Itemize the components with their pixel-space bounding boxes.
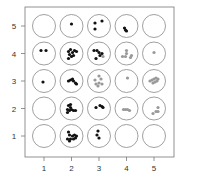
data-point bbox=[70, 55, 73, 58]
grid-cell-4-4 bbox=[115, 42, 138, 65]
y-tick-label: 4 bbox=[12, 50, 17, 59]
data-point bbox=[97, 81, 100, 84]
grid-cell-2-3 bbox=[60, 70, 83, 93]
data-point bbox=[155, 79, 158, 82]
grid-cell-3-1 bbox=[88, 125, 111, 148]
cell-circle bbox=[88, 125, 111, 148]
plot-area bbox=[33, 15, 166, 148]
grid-cell-1-5 bbox=[33, 15, 56, 38]
data-point bbox=[75, 82, 78, 85]
data-point bbox=[41, 80, 44, 83]
grid-cell-3-3 bbox=[88, 70, 111, 93]
data-point bbox=[39, 49, 42, 52]
data-point bbox=[152, 51, 155, 54]
y-tick-label: 1 bbox=[12, 132, 17, 141]
grid-cell-5-1 bbox=[143, 125, 166, 148]
data-point bbox=[44, 49, 47, 52]
cell-circle bbox=[88, 70, 111, 93]
data-point bbox=[69, 103, 72, 106]
cell-circle bbox=[33, 125, 56, 148]
data-point bbox=[66, 111, 69, 114]
x-tick-label: 1 bbox=[42, 164, 47, 173]
data-point bbox=[125, 49, 128, 52]
data-point bbox=[99, 77, 102, 80]
data-point bbox=[94, 57, 97, 60]
grid-cell-4-5 bbox=[115, 15, 138, 38]
data-point bbox=[151, 112, 154, 115]
grid-cell-2-1 bbox=[60, 125, 83, 148]
cell-circle bbox=[115, 70, 138, 93]
cell-circle bbox=[143, 125, 166, 148]
grid-cell-3-2 bbox=[88, 97, 111, 120]
data-point bbox=[97, 136, 100, 139]
cell-circle bbox=[115, 15, 138, 38]
grid-cell-3-4 bbox=[88, 42, 111, 65]
grid-cell-5-5 bbox=[143, 15, 166, 38]
y-axis: 12345 bbox=[12, 22, 25, 141]
grid-cell-5-2 bbox=[143, 97, 166, 120]
grid-cell-3-5 bbox=[88, 15, 111, 38]
data-point bbox=[125, 29, 128, 32]
grid-cell-4-2 bbox=[115, 97, 138, 120]
data-point bbox=[75, 50, 78, 53]
data-point bbox=[69, 48, 72, 51]
data-point bbox=[156, 110, 159, 113]
grid-cell-4-3 bbox=[115, 70, 138, 93]
cell-circle bbox=[33, 15, 56, 38]
x-axis: 12345 bbox=[42, 157, 157, 173]
data-point bbox=[67, 130, 70, 133]
data-point bbox=[97, 51, 100, 54]
data-point bbox=[96, 84, 99, 87]
data-point bbox=[93, 27, 96, 30]
data-point bbox=[100, 82, 103, 85]
data-point bbox=[101, 55, 104, 58]
x-tick-label: 4 bbox=[124, 164, 129, 173]
data-point bbox=[121, 55, 124, 58]
x-tick-label: 2 bbox=[69, 164, 74, 173]
y-tick-label: 2 bbox=[12, 105, 17, 114]
cell-circle bbox=[143, 97, 166, 120]
grid-cell-5-4 bbox=[143, 42, 166, 65]
grid-cell-1-2 bbox=[33, 97, 56, 120]
data-point bbox=[68, 133, 71, 136]
data-point bbox=[100, 19, 103, 22]
y-tick-label: 3 bbox=[12, 77, 17, 86]
cell-circle bbox=[33, 97, 56, 120]
data-point bbox=[70, 22, 73, 25]
grid-cell-1-4 bbox=[33, 42, 56, 65]
grid-cell-5-3 bbox=[143, 70, 166, 93]
data-point bbox=[74, 136, 77, 139]
circle-grid-chart: 12345 12345 bbox=[0, 0, 214, 186]
cell-circle bbox=[88, 15, 111, 38]
data-point bbox=[74, 109, 77, 112]
cell-circle bbox=[143, 15, 166, 38]
data-point bbox=[67, 57, 70, 60]
x-tick-label: 5 bbox=[152, 164, 157, 173]
y-tick-label: 5 bbox=[12, 22, 17, 31]
cell-circle bbox=[115, 125, 138, 148]
data-point bbox=[128, 109, 131, 112]
data-point bbox=[93, 78, 96, 81]
data-point bbox=[124, 55, 127, 58]
data-point bbox=[68, 139, 71, 142]
data-point bbox=[98, 54, 101, 57]
grid-cell-1-3 bbox=[33, 70, 56, 93]
grid-cell-2-2 bbox=[60, 97, 83, 120]
data-point bbox=[151, 81, 154, 84]
cell-circle bbox=[33, 42, 56, 65]
data-point bbox=[96, 129, 99, 132]
cell-circle bbox=[88, 97, 111, 120]
cell-circle bbox=[60, 15, 83, 38]
data-point bbox=[101, 106, 104, 109]
data-point bbox=[93, 21, 96, 24]
grid-cell-2-5 bbox=[60, 15, 83, 38]
grid-cell-2-4 bbox=[60, 42, 83, 65]
grid-cell-4-1 bbox=[115, 125, 138, 148]
data-point bbox=[97, 74, 100, 77]
data-point bbox=[130, 54, 133, 57]
grid-cell-1-1 bbox=[33, 125, 56, 148]
x-tick-label: 3 bbox=[97, 164, 102, 173]
data-point bbox=[95, 133, 98, 136]
data-point bbox=[94, 106, 97, 109]
data-point bbox=[156, 106, 159, 109]
